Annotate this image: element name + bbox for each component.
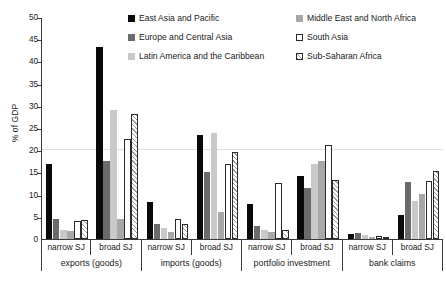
y-axis-tick-label: 30 <box>14 103 38 111</box>
bar <box>261 230 267 239</box>
bar <box>232 152 238 239</box>
bar <box>46 164 52 239</box>
x-axis-sub-label: narrow SJ <box>242 240 292 255</box>
bar <box>297 176 303 239</box>
x-axis-category-label: imports (goods) <box>142 255 243 271</box>
bar <box>369 237 375 239</box>
bar-group <box>42 18 92 239</box>
bar <box>304 188 310 240</box>
bar <box>218 212 224 239</box>
bar <box>211 133 217 239</box>
legend-item: East Asia and Pacific <box>128 13 219 23</box>
bar <box>383 237 389 239</box>
x-axis-sub-label: broad SJ <box>91 240 141 255</box>
bar <box>405 182 411 239</box>
bar <box>197 135 203 239</box>
x-axis-sub-label: broad SJ <box>393 240 443 255</box>
y-axis-tick-label: 50 <box>14 14 38 22</box>
bar <box>433 171 439 239</box>
bar <box>96 47 102 239</box>
x-axis-category-label: portfolio investment <box>242 255 343 271</box>
y-axis-tick-label: 15 <box>14 169 38 177</box>
bar <box>147 202 153 239</box>
dark-gray-solid-swatch <box>128 34 135 41</box>
y-axis-tick-label: 35 <box>14 81 38 89</box>
bar <box>182 224 188 239</box>
bar <box>268 232 274 239</box>
bar <box>110 110 116 239</box>
light-gray-solid-swatch <box>128 53 135 60</box>
bar <box>60 230 66 239</box>
x-axis-label-group: narrow SJbroad SJnarrow SJbroad SJnarrow… <box>41 240 443 274</box>
bar <box>318 161 324 239</box>
bar <box>332 180 338 239</box>
bar <box>81 220 87 239</box>
bar <box>412 201 418 239</box>
bar <box>325 145 331 239</box>
x-axis-sub-label: narrow SJ <box>343 240 393 255</box>
medium-gray-solid-swatch <box>296 15 303 22</box>
bar <box>154 224 160 239</box>
legend-item-label: Europe and Central Asia <box>139 32 232 42</box>
bar <box>74 221 80 239</box>
x-axis-sub-label: broad SJ <box>192 240 242 255</box>
legend-item-label: Sub-Saharan Africa <box>307 51 382 61</box>
bar <box>168 232 174 239</box>
y-axis-tick-label: 20 <box>14 147 38 155</box>
legend-item-label: East Asia and Pacific <box>139 13 219 23</box>
y-axis-tick-label: 5 <box>14 214 38 222</box>
bar-chart: % of GDP 05101520253035404550 narrow SJb… <box>0 0 446 289</box>
bar <box>398 215 404 239</box>
bar <box>254 226 260 239</box>
bar <box>225 164 231 239</box>
bar <box>103 161 109 239</box>
legend-item-label: Middle East and North Africa <box>307 13 416 23</box>
bar <box>53 219 59 239</box>
legend-item: Middle East and North Africa <box>296 13 416 23</box>
bar <box>282 230 288 239</box>
bar <box>247 204 253 239</box>
bar <box>175 219 181 239</box>
bar <box>419 194 425 239</box>
bar <box>362 235 368 239</box>
bar <box>117 219 123 239</box>
legend-item-label: Latin America and the Caribbean <box>139 51 264 61</box>
y-axis-tick-label: 25 <box>14 125 38 133</box>
bar <box>376 236 382 239</box>
x-axis-sub-label: broad SJ <box>292 240 342 255</box>
bar <box>204 172 210 239</box>
legend-item-label: South Asia <box>307 32 348 42</box>
figure-caption <box>0 281 446 289</box>
bar <box>67 231 73 239</box>
bar <box>124 139 130 239</box>
white-outline-swatch <box>296 34 303 41</box>
y-axis-tick-label: 10 <box>14 192 38 200</box>
bar <box>131 114 137 239</box>
black-solid-swatch <box>128 15 135 22</box>
bar <box>355 233 361 239</box>
y-axis-tick-label: 45 <box>14 36 38 44</box>
legend-item: South Asia <box>296 32 348 42</box>
x-axis-category-label: bank claims <box>343 255 444 271</box>
bar <box>348 234 354 239</box>
chart-legend: East Asia and PacificEurope and Central … <box>128 13 428 67</box>
legend-item: Latin America and the Caribbean <box>128 51 264 61</box>
y-axis-tick-label: 0 <box>14 236 38 244</box>
hatched-swatch <box>296 53 303 60</box>
legend-item: Europe and Central Asia <box>128 32 232 42</box>
y-axis-tick-label: 40 <box>14 58 38 66</box>
bar <box>275 183 281 239</box>
legend-item: Sub-Saharan Africa <box>296 51 382 61</box>
bar <box>161 228 167 239</box>
bar <box>426 181 432 239</box>
x-axis-sub-label: narrow SJ <box>41 240 91 255</box>
x-axis-category-label: exports (goods) <box>41 255 142 271</box>
bar <box>311 164 317 239</box>
x-axis-sub-label: narrow SJ <box>142 240 192 255</box>
